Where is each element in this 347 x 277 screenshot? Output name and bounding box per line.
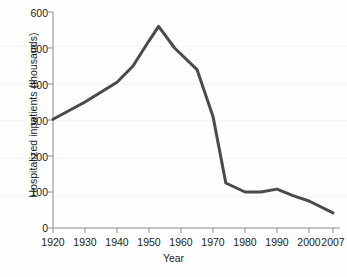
figure-container: Hospitalized inpatients (thousands) 600 … [0,0,347,277]
data-line-hospitalized-inpatients [53,26,333,212]
x-tick-marks [53,228,333,233]
plot-area [0,0,347,277]
